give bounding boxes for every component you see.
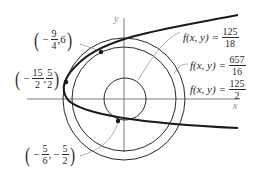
point-label-1: (−94,6)	[33, 28, 73, 51]
point-label-2: (−152,52)	[14, 67, 61, 90]
point-label-3: (−56,−52)	[24, 143, 76, 166]
fraction: 94	[51, 28, 58, 51]
level-label-1: f(x, y) = 12518	[183, 26, 239, 49]
level-label-2: f(x, y) = 65716	[190, 54, 246, 77]
leader-level-1	[138, 32, 180, 80]
y-axis-label: y	[114, 13, 118, 24]
leader-point-3	[80, 123, 118, 156]
point-neg9over4-6	[99, 50, 103, 54]
open-paren: (	[34, 29, 39, 51]
close-paren: )	[67, 29, 72, 51]
leader-level-2	[174, 64, 188, 74]
point-neg15over2-5over2	[64, 80, 68, 84]
x-axis-label: x	[233, 100, 237, 111]
point-neg5over6-neg5over2	[116, 119, 120, 123]
level-label-3: f(x, y) = 1252	[190, 78, 246, 101]
